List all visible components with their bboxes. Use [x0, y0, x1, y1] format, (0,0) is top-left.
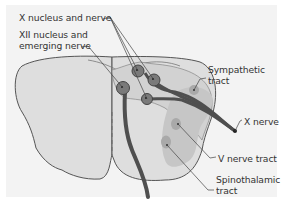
- label-spinothalamic-line1: Spinothalamic: [216, 174, 280, 185]
- label-sympathetic-line1: Sympathetic: [208, 64, 265, 75]
- label-sympathetic-line2: tract: [208, 75, 229, 86]
- leader-x-nerve: [235, 120, 242, 131]
- brainstem-left-half: [15, 56, 112, 179]
- label-x-nucleus: X nucleus and nerve: [19, 12, 111, 23]
- label-spinothalamic-line2: tract: [216, 185, 237, 196]
- label-x-nerve: X nerve: [244, 116, 279, 127]
- label-v-nerve-tract: V nerve tract: [218, 153, 277, 164]
- label-xii-nucleus-line2: emerging nerve: [19, 40, 91, 51]
- spinothalamic-tract-spot: [161, 136, 171, 149]
- v-nerve-tract-spot: [171, 118, 181, 130]
- label-xii-nucleus-line1: XII nucleus and: [19, 29, 88, 40]
